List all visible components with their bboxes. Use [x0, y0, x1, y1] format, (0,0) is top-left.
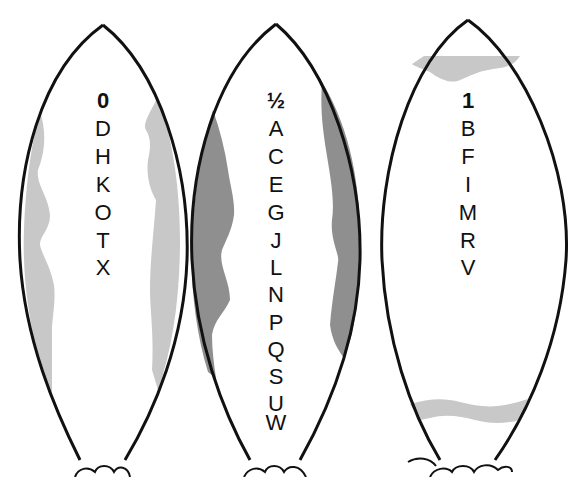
letter: G [267, 200, 284, 225]
diagram-canvas: 0 D H K O T X ½ A C E G J L N P Q S U W … [0, 0, 586, 477]
shade-band-bottom [410, 399, 528, 423]
letter: K [96, 172, 111, 197]
column-half-labels: ½ A C E G J L N P Q S U W [266, 88, 287, 435]
letter: D [95, 116, 111, 141]
shade-band-left [192, 110, 235, 378]
letter: A [269, 116, 284, 141]
column-header: ½ [267, 88, 285, 113]
bump-cluster [408, 459, 512, 477]
letter: E [269, 172, 284, 197]
letter: L [270, 255, 282, 280]
letter: F [461, 144, 474, 169]
letter: V [461, 255, 476, 280]
letter: P [269, 310, 284, 335]
column-one-labels: 1 B F I M R V [459, 88, 477, 280]
column-zero-labels: 0 D H K O T X [94, 88, 111, 280]
letter: C [268, 144, 284, 169]
letter: T [96, 228, 109, 253]
bump-cluster [244, 466, 306, 477]
letter: Q [267, 337, 284, 362]
letter: O [94, 200, 111, 225]
letter: X [96, 255, 111, 280]
letter: S [269, 364, 284, 389]
letter: M [459, 200, 477, 225]
column-header: 0 [97, 88, 109, 113]
letter: J [271, 228, 282, 253]
letter: N [268, 282, 284, 307]
shade-band-top [412, 56, 520, 82]
letter: I [465, 172, 471, 197]
letter: B [461, 116, 476, 141]
letter: W [266, 410, 287, 435]
bump-cluster [75, 466, 130, 477]
letter: R [460, 228, 476, 253]
column-header: 1 [462, 88, 474, 113]
letter: H [95, 144, 111, 169]
